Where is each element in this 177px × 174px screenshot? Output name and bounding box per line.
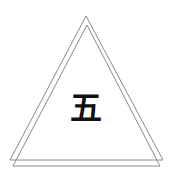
- triangle-figure: [0, 0, 177, 174]
- five-character: 五: [66, 88, 106, 128]
